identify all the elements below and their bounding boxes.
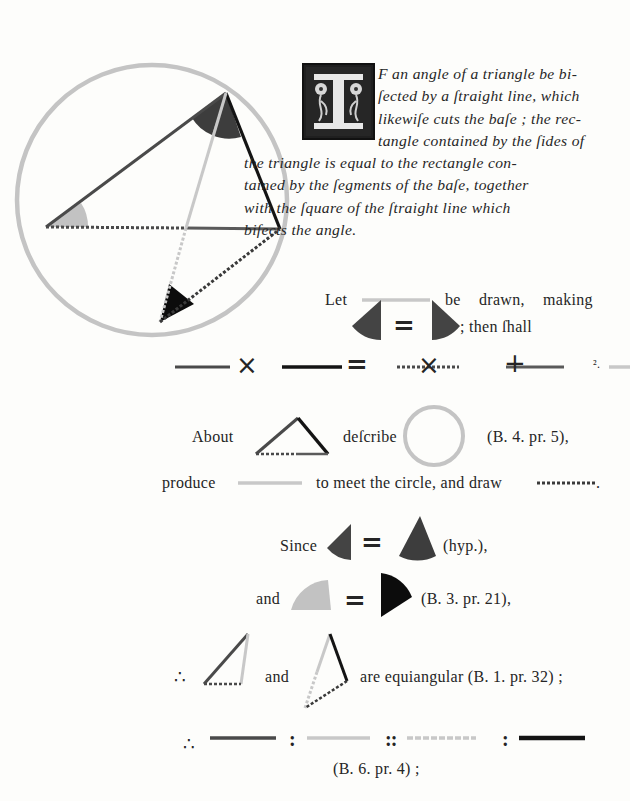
proposition-line: the triangle is equal to the rectangle c… [244, 152, 614, 174]
therefore-symbol: ∴ [174, 666, 186, 687]
plus-sign: + [504, 348, 526, 378]
be-drawn-text: be drawn, making [445, 291, 593, 309]
ratio-colon: : [289, 728, 296, 751]
equiangular-text: are equiangular (B. 1. pr. 32) ; [360, 668, 563, 686]
describe-text: deſcribe [343, 428, 397, 446]
let-text: Let [325, 291, 347, 309]
triangle-symbol [252, 412, 332, 462]
small-triangle-acd [303, 632, 363, 712]
then-shall-text: ; then ſhall [460, 318, 532, 336]
proposition-statement: F an angle of a triangle be bi- ſected b… [244, 63, 614, 241]
proposition-line: F an angle of a triangle be bi- [244, 63, 614, 85]
reference-b3-pr21: (B. 3. pr. 21), [421, 590, 511, 608]
proposition-line: tained by the ſegments of the baſe, toge… [244, 174, 614, 196]
angle-d-symbol [379, 573, 413, 617]
proposition-line: likewiſe cuts the baſe ; the rec- [244, 108, 614, 130]
to-meet-text: to meet the circle, and draw [316, 474, 502, 492]
since-text: Since [280, 537, 317, 555]
angle-b-symbol [291, 580, 333, 612]
therefore-symbol: ∴ [183, 733, 195, 754]
about-text: About [192, 428, 234, 446]
ratio-colon: : [502, 728, 509, 751]
times-sign: × [236, 350, 258, 380]
angle-other-half-symbol [399, 516, 437, 560]
proposition-line: tangle contained by the ſides of [244, 130, 614, 152]
equals-sign: = [346, 349, 368, 379]
half-angle-left-symbol [352, 300, 382, 340]
period: . [596, 474, 600, 492]
proposition-line: with the ſquare of the ſtraight line whi… [244, 197, 614, 219]
reference-b6-pr4: (B. 6. pr. 4) ; [333, 760, 420, 778]
times-sign: × [418, 350, 440, 380]
equals-sign: = [361, 527, 383, 557]
squared-mark: ². [593, 357, 600, 372]
equals-sign: = [393, 310, 415, 340]
equals-sign: = [344, 585, 366, 615]
proposition-line: biſects the angle. [244, 219, 614, 241]
proportion-double-colon: :: [385, 728, 396, 751]
half-angle-right-symbol [431, 300, 461, 340]
chord-dc-symbol [537, 480, 599, 486]
reference-b4-pr5: (B. 4. pr. 5), [487, 428, 569, 446]
small-triangle-abe [200, 632, 250, 686]
and-text: and [256, 590, 280, 608]
base-be-dotted [46, 227, 186, 228]
side-ab [46, 93, 226, 227]
proposition-line: ſected by a ſtraight line, which [244, 85, 614, 107]
proportion-line [210, 733, 630, 743]
and-text: and [265, 668, 289, 686]
angle-half-symbol [327, 524, 353, 560]
hypothesis-ref: (hyp.), [443, 537, 488, 555]
produce-text: produce [162, 474, 216, 492]
bisector-extension-symbol [238, 480, 304, 486]
circle-symbol [401, 403, 467, 469]
